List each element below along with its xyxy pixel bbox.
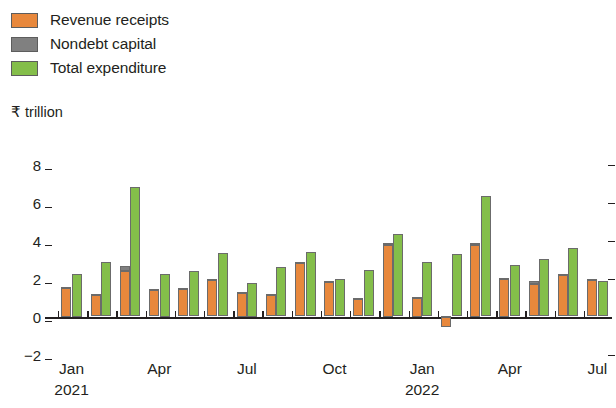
y-axis-tick-mark-right bbox=[608, 279, 615, 281]
bar-nondebt-capital bbox=[558, 274, 568, 276]
bar-revenue-receipts bbox=[558, 275, 568, 317]
y-axis-tick-mark-right bbox=[608, 165, 615, 167]
y-axis-tick-mark bbox=[45, 207, 52, 209]
x-axis-tick-mark bbox=[438, 311, 439, 317]
bar-nondebt-capital bbox=[149, 289, 159, 291]
y-axis-tick-label: −2 bbox=[9, 346, 41, 363]
x-axis-tick-mark bbox=[204, 311, 205, 317]
bar-chart-plot: 86420−2JanAprJulOctJanAprJul20212022 bbox=[0, 0, 616, 408]
y-axis-tick-mark-right bbox=[608, 203, 615, 205]
x-axis-year-label: 2022 bbox=[405, 381, 439, 399]
bar-revenue-receipts bbox=[120, 271, 130, 317]
y-axis-tick-label: 8 bbox=[9, 156, 41, 173]
x-axis-tick-mark bbox=[584, 311, 585, 317]
x-axis-tick-mark bbox=[233, 311, 234, 317]
bar-revenue-receipts bbox=[529, 284, 539, 316]
bar-total-expenditure bbox=[160, 274, 170, 317]
bar-revenue-receipts bbox=[470, 245, 480, 316]
bar-nondebt-capital bbox=[120, 266, 130, 271]
bar-revenue-receipts bbox=[441, 317, 451, 327]
bar-revenue-receipts bbox=[499, 279, 509, 317]
bar-total-expenditure bbox=[101, 262, 111, 316]
x-axis-tick-mark bbox=[525, 311, 526, 317]
x-axis-tick-label: Jan bbox=[410, 360, 435, 378]
bar-total-expenditure bbox=[130, 187, 140, 316]
bar-revenue-receipts bbox=[353, 298, 363, 316]
x-axis-tick-label: Oct bbox=[322, 360, 346, 378]
x-axis-tick-mark bbox=[58, 311, 59, 317]
bar-nondebt-capital bbox=[237, 292, 247, 294]
zero-baseline bbox=[45, 317, 612, 319]
bar-nondebt-capital bbox=[295, 262, 305, 264]
bar-nondebt-capital bbox=[470, 243, 480, 245]
x-axis-tick-label: Jan bbox=[59, 360, 84, 378]
bar-nondebt-capital bbox=[207, 279, 217, 281]
bar-total-expenditure bbox=[452, 254, 462, 317]
bar-nondebt-capital bbox=[324, 281, 334, 283]
bar-nondebt-capital bbox=[266, 294, 276, 296]
x-axis-tick-mark bbox=[87, 311, 88, 317]
y-axis-tick-label: 6 bbox=[9, 194, 41, 211]
bar-nondebt-capital bbox=[412, 297, 422, 299]
bar-revenue-receipts bbox=[207, 280, 217, 316]
x-axis-tick-label: Apr bbox=[147, 360, 171, 378]
bar-nondebt-capital bbox=[383, 243, 393, 245]
y-axis-tick-mark bbox=[45, 245, 52, 247]
bar-nondebt-capital bbox=[441, 316, 451, 318]
x-axis-tick-mark bbox=[292, 311, 293, 317]
bar-nondebt-capital bbox=[499, 278, 509, 280]
x-axis-tick-mark bbox=[262, 311, 263, 317]
bar-revenue-receipts bbox=[324, 282, 334, 316]
x-axis-tick-label: Apr bbox=[498, 360, 522, 378]
bar-nondebt-capital bbox=[529, 281, 539, 284]
x-axis-year-label: 2021 bbox=[54, 381, 88, 399]
y-axis-tick-mark bbox=[45, 283, 52, 285]
bar-nondebt-capital bbox=[61, 287, 71, 289]
bar-nondebt-capital bbox=[353, 298, 363, 300]
bar-total-expenditure bbox=[422, 262, 432, 316]
y-axis-tick-mark bbox=[45, 321, 52, 323]
bar-revenue-receipts bbox=[587, 280, 597, 316]
x-axis-tick-mark bbox=[496, 311, 497, 317]
bar-total-expenditure bbox=[189, 271, 199, 317]
bar-total-expenditure bbox=[510, 265, 520, 316]
x-axis-tick-mark bbox=[409, 311, 410, 317]
x-axis-tick-mark bbox=[467, 311, 468, 317]
bar-nondebt-capital bbox=[91, 294, 101, 296]
bar-revenue-receipts bbox=[237, 293, 247, 317]
bar-revenue-receipts bbox=[91, 295, 101, 317]
bar-total-expenditure bbox=[306, 252, 316, 317]
x-axis-tick-mark bbox=[379, 311, 380, 317]
bar-total-expenditure bbox=[247, 283, 257, 316]
x-axis-tick-mark bbox=[175, 311, 176, 317]
bar-total-expenditure bbox=[481, 196, 491, 317]
y-axis-tick-label: 0 bbox=[9, 308, 41, 325]
bar-total-expenditure bbox=[568, 248, 578, 316]
y-axis-tick-label: 2 bbox=[9, 270, 41, 287]
bar-total-expenditure bbox=[276, 267, 286, 316]
bar-revenue-receipts bbox=[266, 295, 276, 317]
bar-total-expenditure bbox=[335, 279, 345, 316]
y-axis-tick-mark-right bbox=[608, 355, 615, 357]
x-axis-tick-mark bbox=[321, 311, 322, 317]
x-axis-tick-mark bbox=[555, 311, 556, 317]
bar-total-expenditure bbox=[393, 234, 403, 317]
bar-revenue-receipts bbox=[178, 289, 188, 317]
bar-total-expenditure bbox=[539, 259, 549, 317]
y-axis-tick-mark bbox=[45, 359, 52, 361]
y-axis-tick-mark-right bbox=[608, 241, 615, 243]
bar-revenue-receipts bbox=[295, 263, 305, 316]
x-axis-tick-label: Jul bbox=[237, 360, 257, 378]
x-axis-tick-mark bbox=[146, 311, 147, 317]
bar-total-expenditure bbox=[364, 270, 374, 317]
bar-revenue-receipts bbox=[61, 288, 71, 317]
bar-nondebt-capital bbox=[178, 288, 188, 290]
bar-total-expenditure bbox=[218, 253, 228, 317]
bar-revenue-receipts bbox=[149, 290, 159, 317]
bar-total-expenditure bbox=[598, 281, 608, 316]
bar-nondebt-capital bbox=[587, 279, 597, 281]
bar-revenue-receipts bbox=[412, 298, 422, 317]
x-axis-tick-mark bbox=[350, 311, 351, 317]
bar-total-expenditure bbox=[72, 274, 82, 317]
y-axis-tick-label: 4 bbox=[9, 232, 41, 249]
